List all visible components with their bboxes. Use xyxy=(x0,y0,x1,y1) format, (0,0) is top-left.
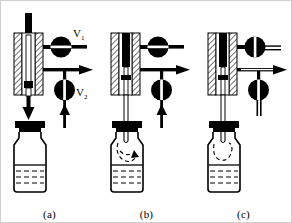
carrier-gas-up-arrow xyxy=(157,100,168,128)
vial-crimp-cap xyxy=(15,121,45,132)
panel-b-drawing xyxy=(98,1,195,201)
panel-b: (b) xyxy=(98,1,195,223)
valve-v2[interactable] xyxy=(151,80,172,101)
panel-a: V1 V2 xyxy=(1,1,98,223)
carrier-gas-up-arrow xyxy=(60,100,71,128)
sample-vial xyxy=(111,121,143,192)
panel-b-caption: (b) xyxy=(98,208,195,220)
needle-seal xyxy=(218,75,228,80)
vent-outlet-line xyxy=(237,65,287,75)
injector-block-right-wall xyxy=(229,33,237,95)
needle-down-arrow xyxy=(23,96,35,120)
vent-outlet-line xyxy=(43,65,93,75)
plunger-rod xyxy=(219,33,227,67)
plunger-rod xyxy=(122,33,130,67)
panel-a-caption: (a) xyxy=(1,208,98,220)
needle-shaft xyxy=(221,67,225,95)
needle-tip xyxy=(124,132,128,143)
injector-block-left-wall xyxy=(111,33,119,95)
sample-vial xyxy=(208,121,240,192)
panel-a-drawing: V1 V2 xyxy=(1,1,98,201)
valve-v1[interactable] xyxy=(51,37,72,58)
v2-stem-line-b xyxy=(260,100,262,116)
sample-vial xyxy=(14,121,46,192)
needle-seal xyxy=(121,75,131,80)
needle-shaft xyxy=(26,35,31,83)
valve-v1[interactable] xyxy=(245,37,266,58)
panel-c: (c) xyxy=(195,1,292,223)
headspace-sampler-figure: V1 V2 xyxy=(0,0,292,223)
valve-v2-label: V2 xyxy=(76,86,88,101)
needle-tip-sleeve xyxy=(26,88,31,96)
v2-stem-line-a xyxy=(257,100,259,116)
valve-v1-label: V1 xyxy=(73,27,85,42)
injector-block-left-wall xyxy=(14,33,22,95)
panel-c-caption: (c) xyxy=(195,208,292,220)
valve-v1[interactable] xyxy=(148,37,169,58)
needle-tip xyxy=(221,132,225,143)
v1-outlet-line-a xyxy=(265,45,281,46)
injector-block-left-wall xyxy=(208,33,216,95)
vial-crimp-cap xyxy=(112,121,142,132)
needle-shaft xyxy=(124,67,128,95)
needle-seal xyxy=(24,81,33,88)
vial-crimp-cap xyxy=(209,121,239,132)
v1-outlet-line-b xyxy=(265,49,281,50)
panel-c-drawing xyxy=(195,1,292,201)
valve-v2[interactable] xyxy=(54,80,75,101)
valve-v2[interactable] xyxy=(248,80,269,101)
vent-outlet-line xyxy=(140,65,190,75)
injector-block-right-wall xyxy=(35,33,43,95)
injector-block-right-wall xyxy=(132,33,140,95)
